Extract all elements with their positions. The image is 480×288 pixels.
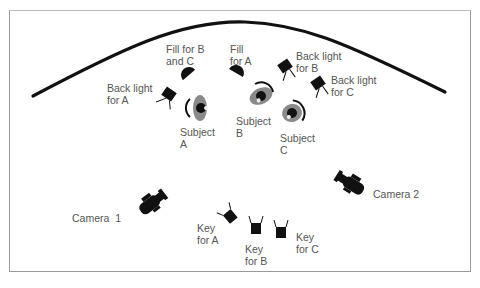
- key-light-c-icon: [274, 220, 288, 238]
- label-fill-bc: Fill for B and C: [166, 43, 205, 67]
- label-fill-a: Fill for A: [230, 43, 252, 67]
- label-back-light-b: Back light for B: [296, 50, 342, 74]
- label-key-a: Key for A: [197, 222, 219, 246]
- label-subject-c: Subject C: [280, 132, 315, 156]
- subject-c-icon: [279, 98, 306, 125]
- label-camera-2: Camera 2: [373, 188, 419, 200]
- label-subject-a: Subject A: [180, 126, 215, 150]
- key-light-a-icon: [217, 202, 240, 225]
- key-light-b-icon: [249, 216, 263, 234]
- label-key-c: Key for C: [296, 231, 319, 255]
- camera-2-icon: [332, 167, 368, 200]
- back-light-c-icon: [307, 75, 332, 101]
- back-light-b-icon: [274, 58, 299, 84]
- label-subject-b: Subject B: [236, 115, 271, 139]
- camera-1-icon: [135, 185, 170, 218]
- label-camera-1: Camera 1: [72, 212, 121, 224]
- label-back-light-c: Back light for C: [331, 74, 377, 98]
- back-light-a-icon: [156, 86, 180, 111]
- subject-a-icon: [186, 95, 208, 121]
- label-key-b: Key for B: [245, 243, 267, 267]
- subject-b-icon: [244, 75, 280, 108]
- label-back-light-a: Back light for A: [107, 82, 153, 106]
